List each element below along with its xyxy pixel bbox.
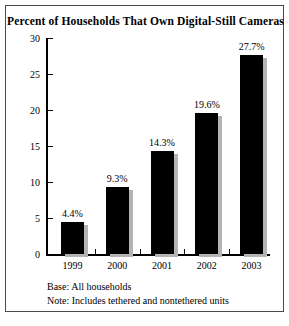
bar-value-label: 14.3% (149, 137, 175, 148)
chart-notes: Base: All households Note: Includes teth… (47, 280, 229, 308)
bar-value-label: 19.6% (194, 99, 220, 110)
plot-area: 051015202530 19992000200120022003 4.4%9.… (46, 38, 270, 256)
y-axis-line (46, 38, 48, 256)
y-tick-label: 10 (30, 177, 40, 188)
note-base: Base: All households (47, 280, 229, 294)
figure-frame: Percent of Households That Own Digital-S… (5, 5, 284, 312)
y-tick-label: 30 (30, 33, 40, 44)
bar-value-label: 9.3% (107, 173, 128, 184)
bar-group: 14.3% (151, 151, 174, 254)
y-tick (48, 38, 53, 39)
y-tick (48, 110, 53, 111)
y-tick (48, 218, 53, 219)
bar-group: 4.4% (61, 222, 84, 254)
y-tick-label: 0 (35, 249, 40, 260)
x-tick-label: 2000 (107, 260, 127, 271)
y-tick-label: 20 (30, 105, 40, 116)
x-tick-label: 2001 (152, 260, 172, 271)
y-tick (48, 254, 53, 255)
x-tick-label: 2002 (197, 260, 217, 271)
bar (240, 55, 263, 254)
chart-figure: Percent of Households That Own Digital-S… (0, 0, 289, 326)
bar-group: 19.6% (195, 113, 218, 254)
x-tick (140, 249, 141, 254)
bar (106, 187, 129, 254)
x-tick-label: 2003 (242, 260, 262, 271)
bar-group: 9.3% (106, 187, 129, 254)
y-tick (48, 182, 53, 183)
bar (195, 113, 218, 254)
bar-value-label: 4.4% (62, 208, 83, 219)
y-tick-label: 15 (30, 141, 40, 152)
bar-group: 27.7% (240, 55, 263, 254)
bar (151, 151, 174, 254)
y-tick-label: 25 (30, 69, 40, 80)
x-tick (229, 249, 230, 254)
chart-title: Percent of Households That Own Digital-S… (6, 15, 285, 27)
x-tick (95, 249, 96, 254)
x-tick-label: 1999 (62, 260, 82, 271)
bar (61, 222, 84, 254)
y-tick (48, 146, 53, 147)
note-detail: Note: Includes tethered and nontethered … (47, 294, 229, 308)
y-tick (48, 74, 53, 75)
x-tick (184, 249, 185, 254)
y-tick-label: 5 (35, 213, 40, 224)
bar-value-label: 27.7% (239, 41, 265, 52)
